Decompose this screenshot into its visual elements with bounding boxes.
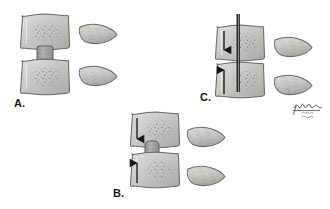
- panel-c-upper-vertebral-body: [215, 25, 264, 61]
- panel-a-lower-vertebral-body: [20, 59, 69, 95]
- panel-c-lower-vertebral-body: [215, 62, 264, 98]
- panel-c-needle-cannula: [237, 14, 240, 92]
- panel-label-a: A.: [14, 98, 25, 109]
- panel-label-b: B.: [113, 188, 124, 199]
- panel-a-upper-vertebral-body: [20, 14, 69, 50]
- spine-illustration-svg: [0, 0, 330, 209]
- figure-canvas: A. B. C.: [0, 0, 330, 209]
- panel-label-c: C.: [200, 92, 211, 103]
- panel-b-lower-vertebral-body: [130, 152, 179, 188]
